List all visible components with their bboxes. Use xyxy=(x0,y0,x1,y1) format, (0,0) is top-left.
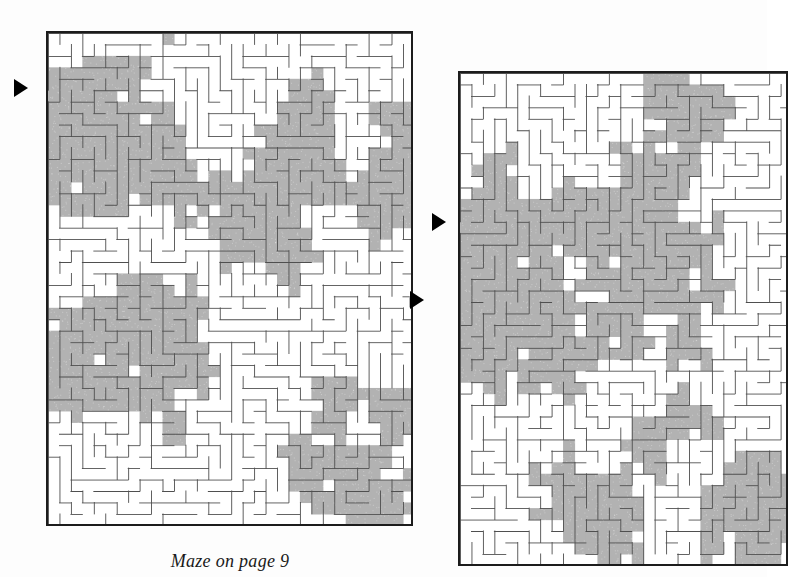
exit-arrow-left-maze xyxy=(410,291,424,309)
maze-grid-left xyxy=(48,33,411,524)
maze-grid-right xyxy=(460,73,786,564)
entry-arrow-right-maze xyxy=(432,213,446,231)
maze-caption: Maze on page 9 xyxy=(171,551,290,572)
maze-frame-left[interactable] xyxy=(46,31,413,526)
maze-figure-left xyxy=(46,31,413,526)
entry-arrow-left-maze xyxy=(14,79,28,97)
maze-frame-right[interactable] xyxy=(458,71,788,566)
maze-figure-right xyxy=(458,71,788,566)
